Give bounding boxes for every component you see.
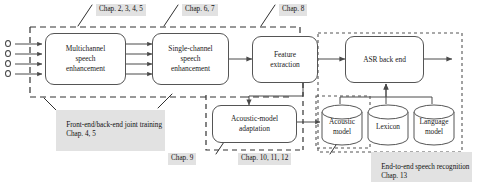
db-acoustic-model[interactable]: Acoustic model [320,104,364,146]
db-language-model-line2: model [425,127,443,136]
label-chap-9: Chap. 9 [168,153,196,165]
label-end-to-end-line2: Chap. 13 [381,172,407,180]
node-multichannel-line2: speech [66,54,105,64]
node-asr-line1: ASR back end [363,55,406,65]
microphone-icon-3 [5,60,11,67]
label-chap-6-7: Chap. 6, 7 [182,4,218,16]
leader-front-end-joint [158,94,172,108]
label-joint-training-line1: Front-end/back-end joint training [66,121,162,129]
node-asr-back-end[interactable]: ASR back end [345,36,424,83]
node-feature-line2: extraction [270,60,300,70]
label-chap-2-3-4-5: Chap. 2, 3, 4, 5 [96,4,146,16]
label-end-to-end-line1: End-to-end speech recognition [381,163,469,171]
node-multichannel-line3: enhancement [66,64,105,74]
node-feature-line1: Feature [270,50,300,60]
leader-chap-8 [261,5,275,26]
leader-chap-2345 [78,5,92,26]
leader-chap-67 [164,5,178,26]
microphone-icon-4 [5,70,11,77]
microphone-icon-1 [5,40,11,47]
node-singlechannel-line1: Single-channel [168,44,212,54]
microphone-icon-2 [5,50,11,57]
label-chap-10-11-12: Chap. 10, 11, 12 [238,153,291,165]
db-language-model-line1: Language [420,117,449,126]
label-joint-training-line2: Chap. 4, 5 [66,130,96,138]
db-acoustic-model-line2: model [333,127,351,136]
node-adaptation-line2: adaptation [231,124,278,134]
feature-to-adaptation [249,83,303,105]
node-acoustic-model-adaptation[interactable]: Acoustic-model adaptation [212,105,297,143]
label-front-end-back-end-joint-training: Front-end/back-end joint training Chap. … [56,110,165,151]
system-architecture-diagram: Multichannel speech enhancement Single-c… [0,0,477,182]
db-language-model[interactable]: Language model [412,104,456,146]
acoustic-model-to-asr [340,84,386,104]
db-lexicon-line1: Lexicon [376,122,400,131]
db-lexicon[interactable]: Lexicon [366,104,410,146]
label-end-to-end-speech-recognition: End-to-end speech recognition Chap. 13 [371,152,472,182]
node-multichannel-speech-enhancement[interactable]: Multichannel speech enhancement [45,33,126,85]
node-singlechannel-line3: enhancement [168,64,212,74]
node-multichannel-line1: Multichannel [66,44,105,54]
node-adaptation-line1: Acoustic-model [231,114,278,124]
node-single-channel-speech-enhancement[interactable]: Single-channel speech enhancement [152,33,229,85]
language-model-to-asr [386,97,432,104]
db-acoustic-model-line1: Acoustic [329,117,355,126]
label-chap-8: Chap. 8 [279,4,307,16]
node-singlechannel-line2: speech [168,54,212,64]
node-feature-extraction[interactable]: Feature extraction [252,36,318,83]
